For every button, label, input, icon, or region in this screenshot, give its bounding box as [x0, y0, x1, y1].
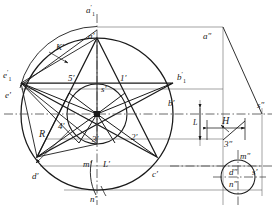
- label-L-side: L: [193, 119, 197, 127]
- label-K-front: K′: [56, 43, 64, 52]
- label-point-5: 5′: [68, 74, 74, 83]
- label-a-side: a″: [203, 32, 211, 41]
- label-e-front: e′: [5, 91, 11, 100]
- label-s-top: s′: [252, 168, 257, 177]
- spoke-e: [21, 83, 97, 114]
- label-point-4: 4′: [58, 122, 64, 131]
- label-c-front: c′: [152, 170, 158, 179]
- label-R: R: [39, 129, 45, 139]
- label-3-side: 3″: [224, 140, 232, 149]
- label-H: H: [222, 116, 229, 126]
- label-L-front: L′: [103, 160, 110, 169]
- label-s-front: s′: [101, 85, 106, 94]
- label-e1-front: e′1: [3, 71, 11, 80]
- label-d-side: d″: [229, 168, 237, 177]
- label-d-front: d′: [32, 172, 38, 181]
- label-n-front: n′: [90, 195, 96, 204]
- label-a1-front: a′1: [86, 6, 95, 15]
- label-point-1: 1′: [120, 74, 126, 83]
- label-point-3: 3′: [92, 135, 98, 144]
- mn-curve-tail: [101, 186, 106, 196]
- technical-drawing-canvas: a′1 a′ K′ e′1 e′ b′1 b′ 5′ 1′ 2′ 3′ 4′ s…: [0, 0, 275, 215]
- label-m-front: m′: [83, 160, 91, 169]
- label-b1-front: b′1: [177, 73, 186, 82]
- spoke-c: [97, 114, 157, 157]
- label-point-2: 2′: [131, 133, 137, 142]
- spoke-b: [97, 83, 173, 114]
- label-s-side: s″: [257, 101, 264, 110]
- leader-3-side: [221, 125, 229, 132]
- label-a-front: a′: [88, 32, 94, 41]
- label-m-side: m″: [240, 152, 250, 161]
- spoke-2: [97, 114, 115, 143]
- label-b-front: b′: [168, 99, 174, 108]
- chord-a1-e1: [20, 30, 97, 86]
- label-n-side: n″: [229, 180, 237, 189]
- center-point-marker: [94, 111, 100, 117]
